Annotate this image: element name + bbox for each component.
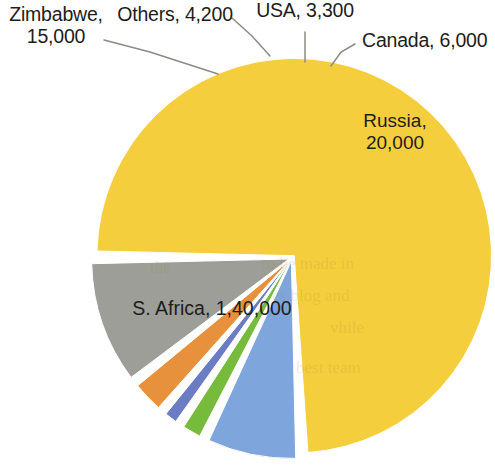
pie-chart: the to be made in es blog and vhile best… (0, 0, 495, 468)
pie-label-usa: USA, 3,300 (247, 0, 363, 22)
pie-label-zimbabwe: Zimbabwe, 15,000 (0, 4, 112, 48)
pie-label-canada: Canada, 6,000 (362, 30, 495, 52)
pie-label-russia: Russia, 20,000 (342, 110, 448, 154)
leader-line-zimbabwe (104, 40, 218, 74)
pie-label-others: Others, 4,200 (110, 4, 240, 26)
pie-chart-graphic (0, 0, 495, 468)
pie-label-s-africa: S. Africa, 1,40,000 (112, 297, 312, 319)
